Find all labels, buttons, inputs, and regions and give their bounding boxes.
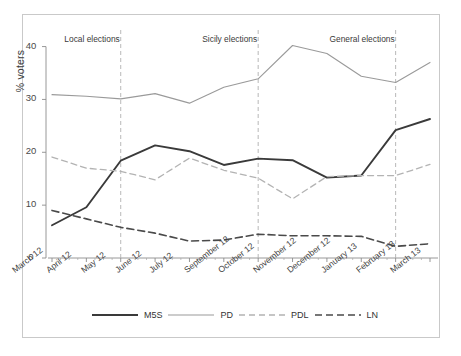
legend-label-pdl: PDL [291,310,309,320]
legend-item-m5s: M5S [92,310,163,320]
line-chart-canvas [0,0,461,356]
series-line-m5s [52,119,430,225]
annotation-label-0: Local elections [64,34,119,44]
legend-swatch-ln [315,311,361,319]
series-line-ln [52,210,430,246]
y-tick-label-20: 20 [20,145,42,156]
legend-label-m5s: M5S [144,310,163,320]
legend-item-ln: LN [315,310,379,320]
legend-item-pdl: PDL [239,310,309,320]
legend-label-pd: PD [220,310,233,320]
legend-label-ln: LN [367,310,379,320]
series-line-pd [52,46,430,104]
legend-swatch-pd [168,311,214,319]
legend-swatch-pdl [239,311,285,319]
legend-item-pd: PD [168,310,233,320]
y-tick-label-10: 10 [20,198,42,209]
chart-screenshot: % voters 010203040 March 12April 12May 1… [0,0,461,356]
annotation-label-2: General elections [329,34,394,44]
y-tick-label-40: 40 [20,40,42,51]
chart-legend: M5S PD PDL LN [70,306,400,324]
y-axis-label: % voters [14,16,28,126]
legend-swatch-m5s [92,311,138,319]
annotation-label-1: Sicily elections [202,34,257,44]
y-tick-label-30: 30 [20,92,42,103]
